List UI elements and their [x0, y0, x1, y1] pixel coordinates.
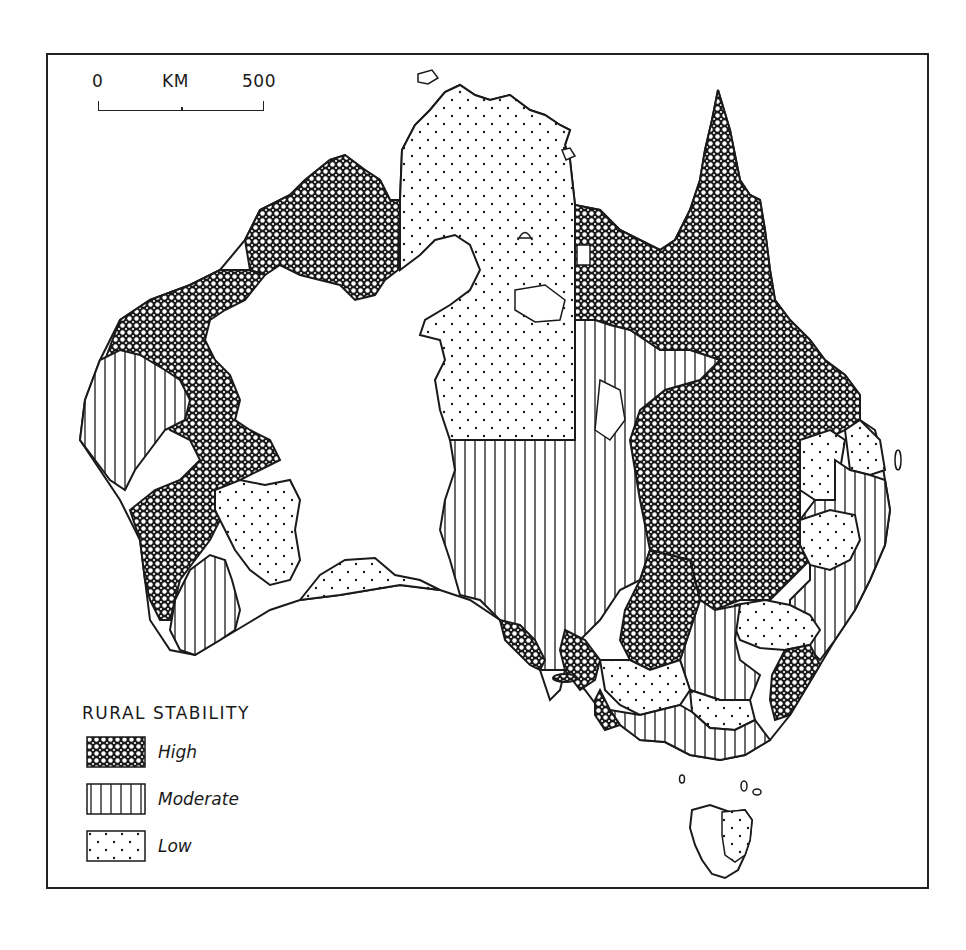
island-tiwi	[418, 70, 438, 84]
legend-item-low: Low	[82, 829, 322, 863]
vertical-lines-swatch-icon	[86, 783, 146, 815]
enclave-square	[577, 245, 590, 265]
island-fraser	[895, 450, 901, 470]
dots-swatch-icon	[86, 830, 146, 862]
scale-end-label: 500	[242, 71, 276, 91]
scale-mid-tick	[181, 107, 183, 111]
region-low-tasmania-east	[722, 810, 752, 862]
legend: RURAL STABILITY High Moderate Low	[82, 703, 322, 876]
scale-bar: 0 KM 500	[92, 71, 282, 121]
island-kangaroo	[553, 674, 577, 682]
legend-title: RURAL STABILITY	[82, 703, 322, 723]
region-low-coastal-qld	[845, 420, 885, 475]
scale-start-label: 0	[92, 71, 103, 91]
legend-item-moderate: Moderate	[82, 782, 322, 816]
crosshatch-swatch-icon	[86, 736, 146, 768]
island-bass-strait-2	[753, 789, 761, 795]
scale-unit-label: KM	[162, 71, 189, 91]
legend-item-high: High	[82, 735, 322, 769]
legend-label-high: High	[158, 742, 197, 762]
legend-label-moderate: Moderate	[158, 789, 239, 809]
scale-bar-line	[98, 101, 264, 111]
legend-label-low: Low	[158, 836, 192, 856]
island-bass-strait-1	[741, 781, 747, 791]
island-king	[680, 775, 685, 783]
